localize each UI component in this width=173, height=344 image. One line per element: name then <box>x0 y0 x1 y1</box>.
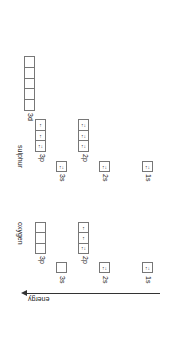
electron-pair: ↑↓ <box>102 266 107 270</box>
oxygen-2s-orbital: ↑↓ <box>99 262 110 273</box>
orbital-box <box>25 100 34 110</box>
sulphur-1s-orbital: ↑↓ <box>142 161 153 172</box>
electron-pair: ↑↓ <box>145 266 150 270</box>
electron-up: ↑ <box>38 123 43 127</box>
electron-pair: ↑↓ <box>81 123 86 127</box>
orbital-box: ↑ <box>79 233 88 243</box>
oxygen-3s-label: 3s <box>59 276 66 283</box>
energy-arrow-head-icon <box>21 290 27 296</box>
oxygen-label: oxygen <box>17 222 24 245</box>
electron-pair: ↑↓ <box>59 165 64 169</box>
orbital-box <box>36 223 45 233</box>
electron-pair: ↑↓ <box>38 144 43 148</box>
orbital-box <box>25 89 34 100</box>
orbital-box: ↑ <box>79 223 88 233</box>
sulphur-3s-orbital: ↑↓ <box>56 161 67 172</box>
sulphur-2s-label: 2s <box>102 174 109 181</box>
oxygen-3s-orbital <box>56 262 67 273</box>
electron-up: ↑ <box>81 226 86 230</box>
oxygen-1s-orbital: ↑↓ <box>142 262 153 273</box>
oxygen-1s-label: 1s <box>145 276 152 283</box>
sulphur-label: sulphur <box>17 145 24 168</box>
orbital-box: ↑↓ <box>79 120 88 131</box>
electron-pair: ↑↓ <box>81 246 86 250</box>
oxygen-2s-label: 2s <box>102 276 109 283</box>
electron-pair: ↑↓ <box>102 165 107 169</box>
orbital-box <box>25 57 34 68</box>
oxygen-2p-orbitals: ↑ ↑ ↑↓ <box>78 222 89 254</box>
electron-pair: ↑↓ <box>81 134 86 138</box>
sulphur-1s-label: 1s <box>145 174 152 181</box>
sulphur-2s-orbital: ↑↓ <box>99 161 110 172</box>
oxygen-3p-orbitals <box>35 222 46 254</box>
sulphur-3s-label: 3s <box>59 174 66 181</box>
orbital-box <box>36 244 45 253</box>
sulphur-2p-label: 2p <box>82 154 89 162</box>
orbital-box: ↑↓ <box>79 141 88 151</box>
orbital-box: ↑ <box>36 120 45 131</box>
energy-axis-line <box>24 293 160 294</box>
orbital-box <box>36 233 45 243</box>
orbital-box: ↑↓ <box>79 244 88 253</box>
sulphur-3p-orbitals: ↑ ↑ ↑↓ <box>35 119 46 152</box>
sulphur-3d-orbitals <box>24 56 35 111</box>
energy-label: energy <box>28 296 49 303</box>
sulphur-2p-orbitals: ↑↓ ↑↓ ↑↓ <box>78 119 89 152</box>
electron-up: ↑ <box>81 236 86 240</box>
orbital-box: ↑ <box>36 131 45 142</box>
electron-pair: ↑↓ <box>145 165 150 169</box>
sulphur-3p-label: 3p <box>39 154 46 162</box>
sulphur-3d-label: 3d <box>27 113 34 121</box>
oxygen-2p-label: 2p <box>82 256 89 264</box>
orbital-box: ↑↓ <box>36 141 45 151</box>
orbital-box: ↑↓ <box>79 131 88 142</box>
electron-pair: ↑↓ <box>81 144 86 148</box>
oxygen-3p-label: 3p <box>39 256 46 264</box>
orbital-box <box>25 68 34 79</box>
orbital-box <box>25 79 34 90</box>
electron-up: ↑ <box>38 134 43 138</box>
